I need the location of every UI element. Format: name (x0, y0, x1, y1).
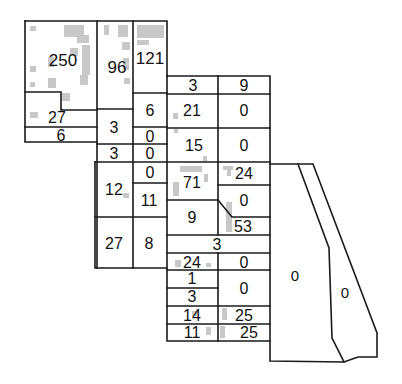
parcel-label-53: 53 (234, 218, 252, 235)
parcel-label-25: 25 (240, 324, 258, 341)
parcel-label-0: 0 (291, 267, 299, 284)
parcel-boundaries (25, 21, 377, 362)
building-footprints (30, 25, 233, 338)
parcel-label-11: 11 (141, 192, 158, 209)
parcel-label-3: 3 (213, 236, 222, 253)
parcel-label-6: 6 (57, 127, 66, 144)
parcel-label-96: 96 (108, 58, 127, 77)
parcel-label-21: 21 (183, 102, 201, 119)
parcel-label-14: 14 (183, 307, 201, 324)
parcel-label-3: 3 (110, 119, 119, 136)
parcel-label-25: 25 (235, 307, 253, 324)
parcel-label-3: 3 (110, 145, 119, 162)
parcel-label-3: 3 (188, 288, 197, 305)
parcel-label-11: 11 (184, 324, 201, 341)
parcel-label-3: 3 (189, 77, 198, 94)
parcel-label-121: 121 (136, 49, 164, 68)
parcel-label-250: 250 (49, 51, 77, 70)
parcel-label-1: 1 (188, 270, 197, 287)
parcel-label-6: 6 (146, 102, 155, 119)
parcel-label-24: 24 (235, 165, 253, 182)
parcel-label-8: 8 (145, 235, 154, 252)
parcel-labels: 250 96 121 27 6 3 6 0 3 0 3 9 21 0 15 0 … (48, 49, 349, 341)
parcel-label-24: 24 (183, 254, 201, 271)
parcel-label-0: 0 (240, 192, 249, 209)
parcel-label-27: 27 (105, 235, 123, 252)
parcel-label-27: 27 (48, 109, 66, 126)
parcel-label-71: 71 (183, 174, 201, 191)
parcel-label-0: 0 (240, 280, 249, 297)
parcel-label-0: 0 (341, 284, 349, 301)
parcel-label-15: 15 (185, 137, 203, 154)
parcel-label-0: 0 (240, 254, 249, 271)
parcel-label-0: 0 (240, 137, 249, 154)
parcel-label-0: 0 (146, 164, 155, 181)
parcel-label-9: 9 (188, 209, 197, 226)
parcel-label-9: 9 (240, 77, 249, 94)
parcel-label-0: 0 (240, 102, 249, 119)
parcel-label-0: 0 (146, 145, 155, 162)
parcel-label-12: 12 (105, 181, 123, 198)
parcel-label-0: 0 (146, 128, 155, 145)
parcel-map: 250 96 121 27 6 3 6 0 3 0 3 9 21 0 15 0 … (0, 0, 402, 384)
